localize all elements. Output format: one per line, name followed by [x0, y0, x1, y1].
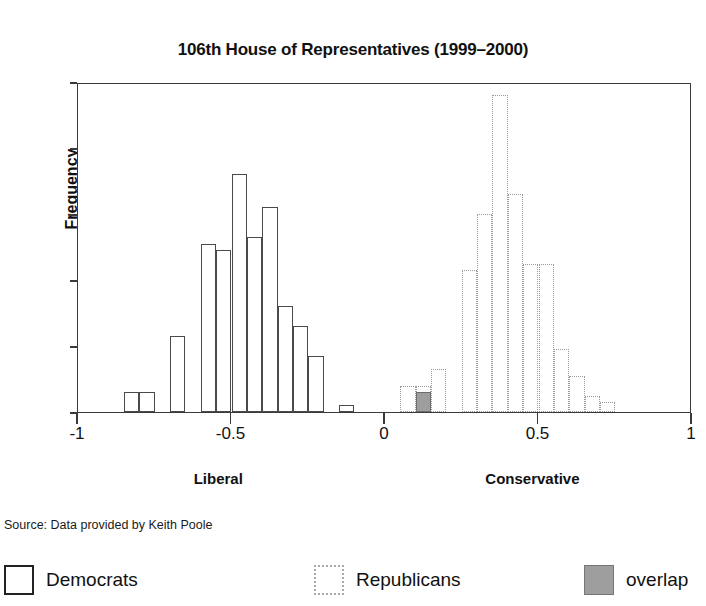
x-tick-label: -1 [37, 424, 117, 444]
axis-label-conservative: Conservative [485, 470, 579, 487]
histogram-bar-dem [124, 392, 139, 412]
y-tick-mark [70, 214, 77, 216]
y-tick-mark [70, 148, 77, 150]
histogram-bar-rep [462, 270, 477, 412]
histogram-bar-dem [247, 237, 262, 412]
legend-item-overlap[interactable]: overlap [584, 560, 688, 600]
legend-swatch-republicans [314, 565, 344, 595]
histogram-bar-dem [308, 356, 323, 412]
histogram-bar-rep [569, 376, 584, 412]
histogram-bar-dem [293, 326, 308, 412]
chart-root: 106th House of Representatives (1999–200… [0, 0, 706, 606]
legend-swatch-overlap [584, 565, 614, 595]
legend-item-republicans[interactable]: Republicans [314, 560, 461, 600]
chart-legend: DemocratsRepublicansoverlap [4, 560, 704, 602]
x-tick-label: 0 [344, 424, 424, 444]
histogram-bar-rep [585, 396, 600, 413]
x-tick-mark [230, 413, 232, 424]
legend-swatch-democrats [4, 565, 34, 595]
x-tick-label: 0.5 [498, 424, 578, 444]
histogram-bar-dem [232, 174, 247, 412]
chart-title: 106th House of Representatives (1999–200… [0, 40, 706, 60]
histogram-bar-rep [492, 95, 507, 412]
histogram-bar-dem [139, 392, 154, 412]
x-tick-mark [383, 413, 385, 424]
x-tick-label: -0.5 [191, 424, 271, 444]
legend-label-democrats: Democrats [46, 569, 138, 591]
histogram-bar-dem [339, 405, 354, 412]
axis-label-liberal: Liberal [194, 470, 243, 487]
histogram-bar-rep [600, 402, 615, 412]
histogram-bar-rep [554, 349, 569, 412]
x-tick-mark [690, 413, 692, 424]
histogram-bars [78, 84, 690, 412]
x-tick-mark [76, 413, 78, 424]
plot-area [77, 83, 691, 413]
legend-item-democrats[interactable]: Democrats [4, 560, 138, 600]
histogram-bar-dem [170, 336, 185, 412]
x-tick-mark [537, 413, 539, 424]
histogram-bar-rep [400, 386, 415, 412]
x-tick-label: 1 [651, 424, 706, 444]
histogram-bar-rep [523, 264, 538, 413]
y-tick-mark [70, 346, 77, 348]
histogram-bar-overlap [416, 392, 431, 412]
histogram-bar-rep [431, 369, 446, 412]
y-tick-mark [70, 280, 77, 282]
y-tick-mark [70, 82, 77, 84]
histogram-bar-rep [508, 194, 523, 412]
histogram-bar-dem [201, 244, 216, 412]
histogram-bar-rep [477, 214, 492, 412]
legend-label-republicans: Republicans [356, 569, 461, 591]
histogram-bar-rep [539, 264, 554, 413]
histogram-bar-dem [278, 306, 293, 412]
histogram-bar-dem [216, 250, 231, 412]
legend-label-overlap: overlap [626, 569, 688, 591]
histogram-bar-dem [262, 207, 277, 412]
source-note: Source: Data provided by Keith Poole [4, 518, 212, 532]
